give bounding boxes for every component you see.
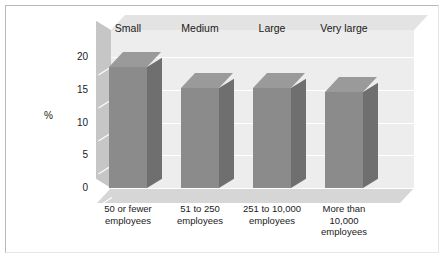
bar-front-face: [181, 88, 219, 188]
y-axis-label: %: [44, 110, 53, 121]
category-label-line: More than: [301, 203, 387, 215]
category-label-line: 10,000: [301, 215, 387, 227]
bar[interactable]: [325, 92, 363, 188]
bar[interactable]: [109, 67, 147, 188]
bar-side-face: [219, 78, 234, 188]
y-tick-label: 5: [62, 150, 88, 160]
bar-side-face: [291, 78, 306, 188]
bar-front-face: [109, 67, 147, 188]
y-tick-label: 10: [62, 118, 88, 128]
bar[interactable]: [181, 88, 219, 188]
category-label-line: employees: [301, 226, 387, 238]
bar-front-face: [325, 92, 363, 188]
group-label: Medium: [159, 22, 241, 34]
y-axis-ticks: 05101520: [58, 0, 88, 256]
y-tick-label: 20: [62, 52, 88, 62]
y-tick-label: 15: [62, 85, 88, 95]
bar-side-face: [147, 57, 162, 188]
category-label: More than10,000employees: [301, 203, 387, 238]
gridline-0: [111, 188, 414, 189]
y-tick-label: 0: [62, 183, 88, 193]
group-label: Very large: [303, 22, 385, 34]
group-label: Small: [87, 22, 169, 34]
chart-figure: SmallMediumLargeVery large 50 or fewerem…: [0, 0, 442, 256]
group-label: Large: [231, 22, 313, 34]
bar[interactable]: [253, 88, 291, 188]
bar-front-face: [253, 88, 291, 188]
plot-floor: [97, 188, 414, 203]
bar-side-face: [363, 82, 378, 188]
gridline-20: [111, 57, 414, 58]
